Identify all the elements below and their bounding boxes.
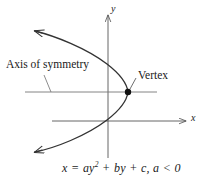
equation-term-a: ay (83, 161, 95, 175)
equation-plus-2: + (129, 161, 138, 175)
y-axis-label: y (111, 4, 115, 14)
vertex-leader (130, 78, 136, 89)
vertex-label: Vertex (138, 70, 168, 82)
equation-equals: = (71, 161, 80, 175)
figure-canvas (0, 0, 204, 184)
equation-caption: x = ay2 + by + c, a < 0 (62, 161, 181, 174)
vertex-point (125, 89, 131, 95)
equation-lhs: x (62, 161, 68, 175)
equation-inequality: < (162, 161, 171, 175)
equation-zero: 0 (175, 161, 181, 175)
equation-term-c: c, (141, 161, 150, 175)
equation-coefficient: a (153, 161, 159, 175)
equation-plus-1: + (102, 161, 111, 175)
axis-of-symmetry-label: Axis of symmetry (6, 59, 89, 71)
equation-term-b: by (114, 161, 126, 175)
x-axis-label: x (191, 113, 195, 123)
parabola-figure: Axis of symmetry Vertex y x x = ay2 + by… (0, 0, 204, 184)
equation-exponent: 2 (95, 160, 99, 169)
axis-of-symmetry-leader (44, 75, 51, 92)
